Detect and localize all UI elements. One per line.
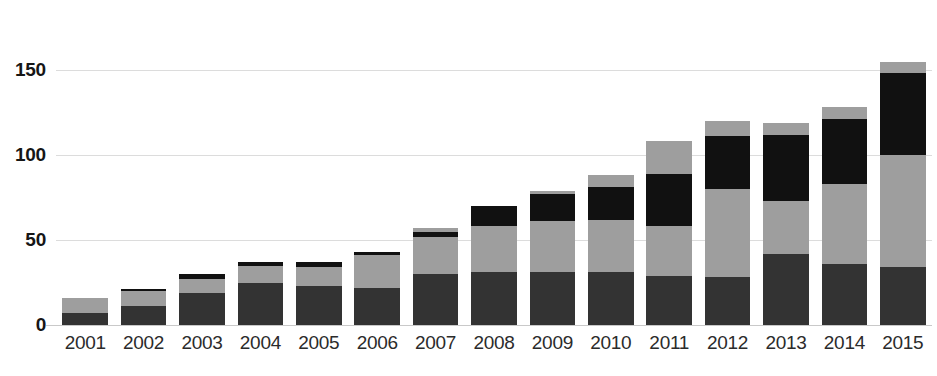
y-axis-labels: 050100150 [0, 0, 46, 376]
y-tick-label-0: 0 [0, 314, 46, 336]
x-tick-label-2014: 2014 [815, 332, 873, 354]
bar-stack [822, 107, 868, 325]
bar-segment-series-4-2010 [588, 175, 634, 187]
bar-segment-series-2-2005 [296, 267, 342, 286]
x-tick-label-2009: 2009 [523, 332, 581, 354]
bar-segment-series-4-2012 [705, 121, 751, 136]
bar-stack [880, 62, 926, 325]
bar-2004[interactable] [238, 0, 284, 325]
bar-2005[interactable] [296, 0, 342, 325]
x-tick-label-2012: 2012 [698, 332, 756, 354]
bar-2009[interactable] [530, 0, 576, 325]
bar-segment-series-3-2012 [705, 136, 751, 189]
bar-stack [588, 175, 634, 325]
bar-2008[interactable] [471, 0, 517, 325]
bar-segment-series-2-2008 [471, 226, 517, 272]
bar-2013[interactable] [763, 0, 809, 325]
bar-series-group [56, 0, 932, 325]
bar-segment-series-2-2012 [705, 189, 751, 277]
x-tick-label-2003: 2003 [173, 332, 231, 354]
bar-segment-series-2-2013 [763, 201, 809, 254]
bar-stack [763, 123, 809, 325]
bar-segment-series-4-2014 [822, 107, 868, 119]
bar-segment-series-2-2001 [62, 298, 108, 313]
bar-stack [530, 191, 576, 325]
bar-segment-series-3-2013 [763, 135, 809, 201]
bar-segment-series-4-2015 [880, 62, 926, 74]
bar-stack [413, 228, 459, 325]
bar-segment-series-1-2001 [62, 313, 108, 325]
bar-segment-series-2-2004 [238, 266, 284, 283]
x-tick-label-2002: 2002 [114, 332, 172, 354]
bar-segment-series-1-2007 [413, 274, 459, 325]
bar-segment-series-1-2003 [179, 293, 225, 325]
bar-2015[interactable] [880, 0, 926, 325]
bar-stack [296, 262, 342, 325]
bar-stack [705, 121, 751, 325]
bar-segment-series-4-2011 [646, 141, 692, 173]
bar-2007[interactable] [413, 0, 459, 325]
bar-stack [354, 252, 400, 325]
bar-2011[interactable] [646, 0, 692, 325]
bar-segment-series-2-2007 [413, 237, 459, 274]
bar-2001[interactable] [62, 0, 108, 325]
x-tick-label-2010: 2010 [582, 332, 640, 354]
x-tick-label-2008: 2008 [465, 332, 523, 354]
bar-segment-series-1-2012 [705, 277, 751, 325]
x-tick-label-2004: 2004 [231, 332, 289, 354]
bar-stack [238, 262, 284, 325]
bar-segment-series-2-2002 [121, 291, 167, 306]
bar-segment-series-1-2013 [763, 254, 809, 325]
bar-2010[interactable] [588, 0, 634, 325]
bar-segment-series-1-2010 [588, 272, 634, 325]
bar-segment-series-1-2002 [121, 306, 167, 325]
bar-stack [471, 206, 517, 325]
bar-segment-series-2-2006 [354, 255, 400, 287]
y-tick-label-100: 100 [0, 144, 46, 166]
bar-segment-series-2-2014 [822, 184, 868, 264]
bar-segment-series-3-2008 [471, 206, 517, 226]
bar-stack [62, 298, 108, 325]
bar-segment-series-2-2003 [179, 279, 225, 293]
bar-segment-series-1-2006 [354, 288, 400, 325]
bar-segment-series-3-2015 [880, 73, 926, 155]
axis-baseline [46, 325, 932, 326]
x-tick-label-2005: 2005 [290, 332, 348, 354]
bar-2014[interactable] [822, 0, 868, 325]
x-tick-label-2011: 2011 [640, 332, 698, 354]
x-tick-label-2013: 2013 [757, 332, 815, 354]
bar-2006[interactable] [354, 0, 400, 325]
bar-stack [121, 289, 167, 325]
bar-segment-series-2-2009 [530, 221, 576, 272]
bar-2012[interactable] [705, 0, 751, 325]
y-tick-label-50: 50 [0, 229, 46, 251]
bar-segment-series-1-2005 [296, 286, 342, 325]
bar-segment-series-4-2013 [763, 123, 809, 135]
bar-segment-series-2-2015 [880, 155, 926, 267]
bar-segment-series-1-2009 [530, 272, 576, 325]
x-tick-label-2001: 2001 [56, 332, 114, 354]
bar-segment-series-2-2011 [646, 226, 692, 275]
bar-2002[interactable] [121, 0, 167, 325]
bar-segment-series-3-2014 [822, 119, 868, 184]
bar-segment-series-3-2010 [588, 187, 634, 219]
bar-segment-series-1-2015 [880, 267, 926, 325]
x-tick-label-2006: 2006 [348, 332, 406, 354]
bar-segment-series-1-2014 [822, 264, 868, 325]
bar-segment-series-2-2010 [588, 220, 634, 273]
bar-2003[interactable] [179, 0, 225, 325]
bar-segment-series-1-2011 [646, 276, 692, 325]
bar-segment-series-3-2009 [530, 194, 576, 221]
y-tick-label-150: 150 [0, 59, 46, 81]
bar-segment-series-1-2008 [471, 272, 517, 325]
x-tick-label-2007: 2007 [406, 332, 464, 354]
x-tick-label-2015: 2015 [874, 332, 932, 354]
stacked-bar-chart: 050100150 200120022003200420052006200720… [0, 0, 937, 376]
bar-segment-series-1-2004 [238, 283, 284, 326]
bar-segment-series-3-2011 [646, 174, 692, 227]
bar-stack [179, 274, 225, 325]
bar-stack [646, 141, 692, 325]
x-axis-labels: 2001200220032004200520062007200820092010… [56, 332, 932, 372]
